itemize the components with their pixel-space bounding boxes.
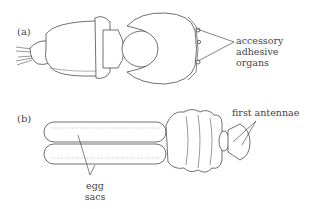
copepod-b-drawing <box>44 110 256 176</box>
copepod-a-drawing <box>16 13 234 84</box>
figure-drawing <box>0 0 311 209</box>
